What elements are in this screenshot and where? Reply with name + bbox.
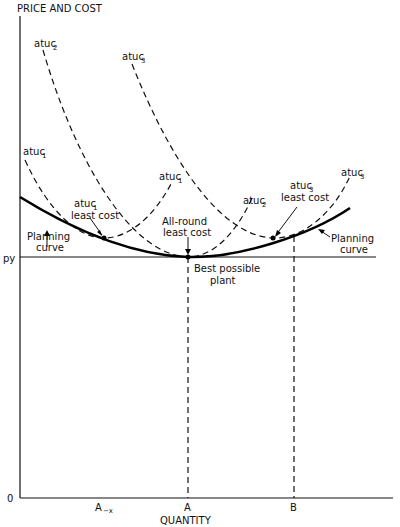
atuc3-min-point <box>271 236 276 241</box>
tick-a-minus-x: A <box>95 502 102 513</box>
py-label: py <box>3 253 15 264</box>
atuc2-top-sub: 2 <box>53 44 57 52</box>
planning-curve-diagram: PRICE AND COST QUANTITY 0 py A −x A B at… <box>0 0 400 527</box>
atuc3-least-cost-label2: least cost <box>281 192 329 203</box>
origin-label: 0 <box>7 493 13 504</box>
tick-b: B <box>290 502 297 513</box>
atuc1-top-sub: 1 <box>42 152 46 160</box>
allround-label2: least cost <box>163 227 211 238</box>
planning-right-label2: curve <box>340 244 368 255</box>
arrowhead-icon <box>185 249 191 255</box>
atuc3-right-sub: 3 <box>360 173 364 181</box>
arrowhead-icon <box>97 230 102 236</box>
atuc1-curve <box>25 160 172 238</box>
planning-left-label: Planning <box>27 231 70 242</box>
atuc1-right-sub: 1 <box>178 177 182 185</box>
atuc3-top-sub: 3 <box>141 57 145 65</box>
atuc3-least-cost-arrow <box>276 207 297 235</box>
tick-a-minus-x-sub: −x <box>103 507 113 515</box>
best-plant-label2: plant <box>210 275 236 286</box>
planning-left-label2: curve <box>36 242 64 253</box>
tick-a: A <box>184 502 191 513</box>
x-axis-label: QUANTITY <box>160 515 212 526</box>
allround-min-point <box>186 255 191 260</box>
planning-right-label: Planning <box>331 233 374 244</box>
y-axis-label: PRICE AND COST <box>17 3 103 14</box>
best-plant-label: Best possible <box>194 263 260 274</box>
atuc1-least-cost-label2: least cost <box>71 210 119 221</box>
arrowhead-icon <box>275 230 281 237</box>
atuc1-min-point <box>102 236 107 241</box>
allround-label: All-round <box>162 216 207 227</box>
atuc3-curve <box>132 64 350 238</box>
atuc2-right-sub: 2 <box>262 201 266 209</box>
